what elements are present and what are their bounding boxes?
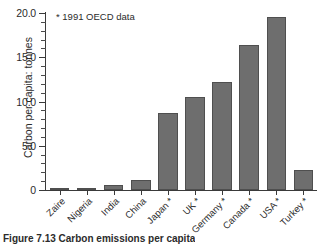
x-tick xyxy=(303,191,304,195)
x-tick xyxy=(195,191,196,195)
bar[interactable] xyxy=(267,17,287,190)
y-tick-label: 10.0 xyxy=(0,97,36,108)
bar[interactable] xyxy=(294,170,314,190)
bar[interactable] xyxy=(50,188,70,190)
x-tick xyxy=(249,191,250,195)
y-tick-label: 5.0 xyxy=(0,141,36,152)
x-tick xyxy=(60,191,61,195)
x-tick xyxy=(168,191,169,195)
y-tick-major xyxy=(39,102,46,103)
plot-area xyxy=(46,13,317,190)
y-tick-major xyxy=(39,190,46,191)
x-tick xyxy=(276,191,277,195)
bar[interactable] xyxy=(131,180,151,190)
y-tick-label: 0 xyxy=(0,185,36,196)
x-tick xyxy=(87,191,88,195)
y-tick-label: 20.0 xyxy=(0,8,36,19)
bar[interactable] xyxy=(212,82,232,190)
x-tick xyxy=(222,191,223,195)
bar[interactable] xyxy=(185,97,205,190)
x-tick xyxy=(141,191,142,195)
y-tick-label: 15.0 xyxy=(0,52,36,63)
y-tick-major xyxy=(39,13,46,14)
x-tick xyxy=(114,191,115,195)
bar[interactable] xyxy=(104,185,124,190)
bar[interactable] xyxy=(77,188,97,190)
bar[interactable] xyxy=(239,45,259,190)
figure-caption: Figure 7.13 Carbon emissions per capita xyxy=(3,233,195,244)
y-tick-major xyxy=(39,146,46,147)
bar[interactable] xyxy=(158,113,178,190)
y-tick-major xyxy=(39,57,46,58)
